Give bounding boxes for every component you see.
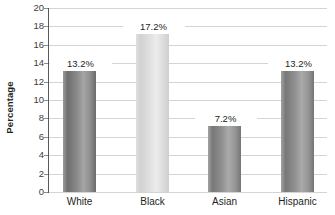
y-axis-tick-label: 16 xyxy=(22,40,44,50)
x-axis-category-label: Asian xyxy=(185,196,265,207)
bar-chart: Percentage 20181614121086420 13.2%17.2%7… xyxy=(0,0,335,215)
bar-value-label: 13.2% xyxy=(268,58,330,69)
y-axis-tick-label: 2 xyxy=(22,169,44,179)
y-axis-tick-label: 10 xyxy=(22,95,44,105)
y-axis-tick-label: 4 xyxy=(22,150,44,160)
y-axis-tick-label: 18 xyxy=(22,22,44,32)
x-axis-category-label: Hispanic xyxy=(258,196,335,207)
x-axis-category-label: Black xyxy=(113,196,193,207)
bar-value-label: 17.2% xyxy=(123,21,185,32)
gridline xyxy=(49,26,327,27)
y-axis-tick-label: 8 xyxy=(22,114,44,124)
bar xyxy=(136,34,169,192)
plot-area xyxy=(49,8,327,192)
bar-value-label: 13.2% xyxy=(50,58,112,69)
gridline xyxy=(49,45,327,46)
y-axis-tick-label: 12 xyxy=(22,77,44,87)
y-axis-tick-labels: 20181614121086420 xyxy=(22,0,44,215)
bar xyxy=(281,71,314,192)
bar xyxy=(208,126,241,192)
y-axis-tick-label: 14 xyxy=(22,58,44,68)
y-axis-tick-label: 6 xyxy=(22,132,44,142)
y-axis-tick-label: 20 xyxy=(22,3,44,13)
gridline xyxy=(49,8,327,9)
x-axis-category-label: White xyxy=(40,196,120,207)
gridline xyxy=(49,192,327,193)
bar-value-label: 7.2% xyxy=(195,113,257,124)
y-axis-title: Percentage xyxy=(0,0,18,215)
bar xyxy=(63,71,96,192)
